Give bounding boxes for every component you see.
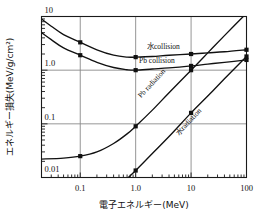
x-tick-label-0.1: 0.1	[75, 183, 86, 193]
chart-figure: 0.11.010100 101.00.10.01 水collisionPb co…	[0, 0, 262, 220]
y-tick-label-0.01: 0.01	[45, 164, 60, 174]
x-axis-title: 電子エネルギー(MeV)	[99, 200, 188, 210]
data-point-marker	[189, 52, 193, 56]
data-point-marker	[244, 54, 248, 58]
energy-loss-log-log-chart: 0.11.010100 101.00.10.01 水collisionPb co…	[0, 0, 262, 220]
data-point-marker	[189, 64, 193, 68]
data-point-marker	[189, 68, 193, 72]
y-tick-label-10: 10	[45, 5, 54, 15]
data-point-marker	[78, 53, 82, 57]
y-tick-label-1.0: 1.0	[45, 58, 56, 68]
x-tick-label-100: 100	[240, 183, 253, 193]
curve-label-Pb-collision: Pb collision	[139, 56, 175, 65]
data-point-marker	[78, 154, 82, 158]
x-tick-label-10: 10	[187, 183, 196, 193]
curve-label-水collision: 水collision	[147, 41, 180, 51]
data-point-marker	[134, 68, 138, 72]
data-point-marker	[134, 55, 138, 59]
data-point-marker	[78, 40, 82, 44]
y-axis-title: エネルギー損失(MeV/g/cm²)	[4, 38, 15, 157]
data-point-marker	[134, 168, 138, 172]
data-point-marker	[244, 48, 248, 52]
x-tick-label-1.0: 1.0	[130, 183, 141, 193]
data-point-marker	[134, 124, 138, 128]
y-tick-label-0.1: 0.1	[45, 112, 56, 122]
